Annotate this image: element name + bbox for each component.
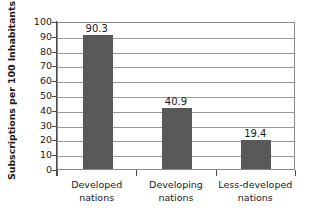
y-axis-tick-label: 100 <box>22 17 52 27</box>
x-axis-category-line: Less-developed <box>216 179 295 192</box>
x-axis-tick-mark <box>216 170 217 176</box>
y-axis-title-text: Subscriptions per 100 Inhabitants <box>6 1 17 180</box>
y-axis-tick-label: 70 <box>22 61 52 71</box>
y-axis-tick-mark <box>52 52 56 53</box>
y-axis-tick-mark <box>52 126 56 127</box>
y-axis-tick-label: 20 <box>22 135 52 145</box>
y-axis-tick-label: 30 <box>22 121 52 131</box>
x-axis-category-label: Developingnations <box>136 179 215 204</box>
y-axis-title: Subscriptions per 100 Inhabitants <box>0 0 22 180</box>
y-axis-tick-label: 0 <box>22 165 52 175</box>
y-axis-tick-mark <box>52 81 56 82</box>
bar[interactable] <box>162 108 192 169</box>
y-axis-tick-mark <box>52 111 56 112</box>
bar[interactable] <box>241 140 271 169</box>
bar-chart: Subscriptions per 100 Inhabitants 100908… <box>0 0 315 215</box>
y-axis-tick-mark <box>52 22 56 23</box>
y-axis-tick-mark <box>52 155 56 156</box>
y-axis-tick-mark <box>52 170 56 171</box>
y-axis-tick-labels: 1009080706050403020100 <box>24 16 56 172</box>
x-axis-category-line: nations <box>216 192 295 205</box>
bar-value-label: 90.3 <box>67 23 127 34</box>
y-axis-tick-mark <box>52 140 56 141</box>
y-axis-tick-label: 90 <box>22 32 52 42</box>
x-axis-category-line: Developing <box>136 179 215 192</box>
y-axis-tick-label: 80 <box>22 47 52 57</box>
x-axis-category-label: Developednations <box>57 179 136 204</box>
x-axis-tick-mark <box>295 170 296 176</box>
bar-value-label: 19.4 <box>225 128 285 139</box>
x-axis-tick-mark <box>57 170 58 176</box>
y-axis-tick-label: 10 <box>22 150 52 160</box>
x-axis-category-line: Developed <box>57 179 136 192</box>
bar[interactable] <box>83 35 113 169</box>
bar-value-label: 40.9 <box>146 96 206 107</box>
x-axis-tick-mark <box>136 170 137 176</box>
x-axis-category-line: nations <box>136 192 215 205</box>
y-axis-tick-label: 60 <box>22 76 52 86</box>
x-axis-category-label: Less-developednations <box>216 179 295 204</box>
y-axis-tick-label: 40 <box>22 106 52 116</box>
y-axis-tick-mark <box>52 96 56 97</box>
x-axis-category-labels: DevelopednationsDevelopingnationsLess-de… <box>57 179 295 213</box>
y-axis-tick-mark <box>52 66 56 67</box>
x-axis-category-line: nations <box>57 192 136 205</box>
y-axis-tick-mark <box>52 37 56 38</box>
y-axis-tick-label: 50 <box>22 91 52 101</box>
